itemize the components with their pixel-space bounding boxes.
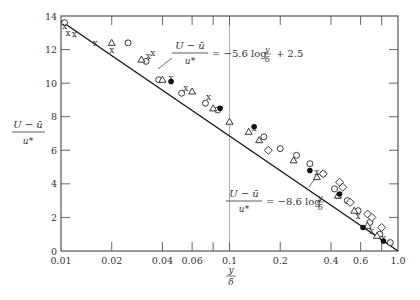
diamond-marker xyxy=(319,170,327,178)
triangle-marker xyxy=(226,118,233,124)
series-filled-circles xyxy=(168,79,386,244)
y-tick-label: 0 xyxy=(51,246,57,257)
series-diamonds xyxy=(264,146,385,231)
cross-marker: x xyxy=(65,28,70,38)
y-tick-label: 14 xyxy=(45,11,57,22)
y-label-denominator: u* xyxy=(23,136,34,146)
filled-circle-marker xyxy=(217,106,223,112)
cross-marker: x xyxy=(206,92,211,102)
eq2-denominator: u* xyxy=(239,204,250,214)
eq1-denominator: u* xyxy=(185,56,196,66)
eq2-delta: δ xyxy=(318,203,323,212)
cross-marker: x xyxy=(150,48,155,58)
eq2-arrow xyxy=(309,180,314,187)
x-tick-label: 0.6 xyxy=(353,255,368,266)
cross-marker: x xyxy=(183,83,188,93)
y-tick-label: 4 xyxy=(51,178,57,189)
eq2-numerator: U − ū xyxy=(229,188,259,199)
filled-circle-marker xyxy=(251,124,257,130)
y-tick-label: 12 xyxy=(45,44,57,55)
diamond-marker xyxy=(264,146,272,154)
y-tick-label: 2 xyxy=(51,212,57,223)
x-axis-label: yδ xyxy=(226,265,236,287)
circle-marker xyxy=(307,161,313,167)
x-tick-label: 1.0 xyxy=(390,255,405,266)
chart: 0.010.020.040.060.10.20.40.61.0024681012… xyxy=(0,0,420,300)
eq1-arrow xyxy=(158,58,172,69)
x-label-denominator: δ xyxy=(228,277,233,287)
eq1-constant: + 2.5 xyxy=(276,48,303,59)
equation-upper: U − ūu*= −5.6 logyδ+ 2.5 xyxy=(158,40,303,69)
circle-marker xyxy=(387,240,393,246)
eq2-body: = −8.6 log xyxy=(266,196,321,207)
filled-circle-marker xyxy=(168,79,174,85)
y-tick-label: 6 xyxy=(51,145,57,156)
y-axis-label: U − ūu* xyxy=(12,119,45,146)
y-label-numerator: U − ū xyxy=(13,119,43,130)
filled-circle-marker xyxy=(337,191,343,197)
x-label-numerator: y xyxy=(227,265,234,275)
triangle-marker xyxy=(108,39,115,45)
x-tick-label: 0.4 xyxy=(323,255,338,266)
eq1-body: = −5.6 log xyxy=(212,48,267,59)
x-tick-label: 0.01 xyxy=(50,255,71,266)
eq1-numerator: U − ū xyxy=(175,40,205,51)
x-tick-label: 0.02 xyxy=(101,255,122,266)
y-tick-label: 8 xyxy=(51,111,57,122)
circle-marker xyxy=(125,40,131,46)
diamond-marker xyxy=(378,224,386,232)
circle-marker xyxy=(277,146,283,152)
eq2-y: y xyxy=(317,193,323,202)
cross-marker: x xyxy=(72,29,77,39)
triangle-marker xyxy=(189,88,196,94)
filled-circle-marker xyxy=(307,168,313,174)
y-tick-label: 10 xyxy=(45,78,57,89)
cross-marker: x xyxy=(93,38,98,48)
filled-circle-marker xyxy=(381,238,387,244)
x-tick-label: 0.04 xyxy=(152,255,173,266)
x-tick-label: 0.06 xyxy=(182,255,203,266)
x-tick-label: 0.2 xyxy=(273,255,288,266)
eq1-y: y xyxy=(264,45,270,54)
filled-circle-marker xyxy=(360,225,366,231)
equation-lower: U − ūu*= −8.6 logyδ xyxy=(226,180,324,214)
eq1-delta: δ xyxy=(265,55,270,64)
circle-marker xyxy=(261,134,267,140)
cross-marker: x xyxy=(109,45,114,55)
circle-marker xyxy=(294,152,300,158)
